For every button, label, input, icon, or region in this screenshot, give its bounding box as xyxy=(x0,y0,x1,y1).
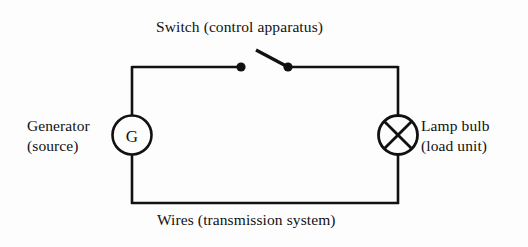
lamp-bulb-label-line-2: (load unit) xyxy=(421,136,490,156)
switch-lever[interactable] xyxy=(256,50,288,67)
generator-letter: G xyxy=(126,127,138,146)
generator-label-line-1: Generator xyxy=(27,116,90,136)
switch-label-text: Switch (control apparatus) xyxy=(156,17,323,37)
lamp-bulb-label-line-1: Lamp bulb xyxy=(421,116,490,136)
generator-label-line-2: (source) xyxy=(27,136,90,156)
switch-contact-left xyxy=(236,62,245,71)
wires-label: Wires (transmission system) xyxy=(157,210,336,230)
switch-contact-right xyxy=(283,62,292,71)
wires-label-text: Wires (transmission system) xyxy=(157,210,336,230)
generator-label: Generator (source) xyxy=(27,116,90,156)
switch-label: Switch (control apparatus) xyxy=(156,17,323,37)
circuit-diagram: G Switch (control apparatus) Generator (… xyxy=(0,0,528,247)
lamp-bulb-label: Lamp bulb (load unit) xyxy=(421,116,490,156)
